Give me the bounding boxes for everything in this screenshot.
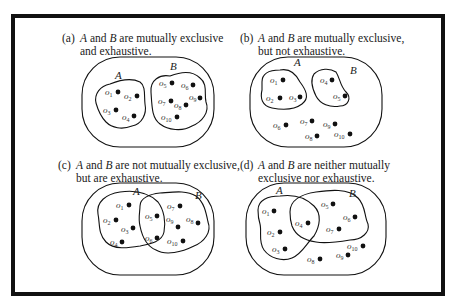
diagram-canvas: A B o1 o2 o3 o4 o5 o6 o7 o9 o8 o10 A B: [0, 0, 453, 302]
set-a-outline: [96, 80, 146, 128]
svg-text:o1: o1: [262, 206, 270, 217]
set-b-label: B: [195, 189, 202, 201]
svg-text:o9: o9: [189, 92, 197, 103]
svg-text:o7: o7: [158, 96, 166, 107]
svg-text:o10: o10: [167, 236, 178, 247]
svg-text:o7: o7: [167, 201, 175, 212]
svg-text:o8: o8: [174, 100, 182, 111]
set-a-label: A: [132, 185, 140, 197]
svg-text:o3: o3: [121, 224, 129, 235]
svg-text:o7: o7: [300, 116, 308, 127]
set-b-label: B: [350, 64, 357, 76]
svg-text:o2: o2: [267, 227, 275, 238]
svg-text:o1: o1: [270, 75, 278, 86]
svg-text:o8: o8: [305, 131, 313, 142]
svg-text:o4: o4: [295, 218, 303, 229]
point-labels: o1 o2 o3 o4 o5 o6 o7 o9 o8 o10: [103, 78, 197, 123]
svg-text:o9: o9: [323, 119, 331, 130]
panel-d: A B o1 o2 o3 o4 o5 o6 o7 o8 o9 o10: [246, 183, 386, 275]
svg-text:o6: o6: [145, 233, 153, 244]
panel-a: A B o1 o2 o3 o4 o5 o6 o7 o9 o8 o10: [82, 57, 214, 147]
panel-c: A B o1 o2 o3 o4 o5 o6 o7 o9 o8 o10: [82, 183, 214, 275]
svg-text:o5: o5: [145, 211, 153, 222]
svg-text:o4: o4: [122, 112, 130, 123]
points: [278, 78, 353, 139]
svg-text:o10: o10: [161, 112, 172, 123]
svg-text:o3: o3: [289, 92, 297, 103]
svg-text:o6: o6: [343, 212, 351, 223]
set-b-outline: [312, 69, 349, 106]
svg-text:o9: o9: [166, 214, 174, 225]
svg-text:o7: o7: [326, 224, 334, 235]
svg-text:o3: o3: [103, 105, 111, 116]
set-a-label: A: [114, 69, 122, 81]
svg-text:o6: o6: [181, 80, 189, 91]
svg-text:o8: o8: [186, 214, 194, 225]
svg-text:o10: o10: [334, 129, 345, 140]
svg-text:o6: o6: [273, 120, 281, 131]
panel-b: A B o1 o2 o3 o4 o5 o6 o7 o8 o9 o10: [250, 56, 382, 147]
svg-text:o4: o4: [110, 237, 118, 248]
set-a-outline: [261, 70, 306, 110]
svg-text:o5: o5: [159, 78, 167, 89]
set-a-label: A: [293, 56, 301, 68]
points: [272, 202, 366, 262]
set-b-label: B: [349, 187, 356, 199]
set-b-label: B: [170, 60, 177, 72]
svg-text:o2: o2: [124, 91, 132, 102]
svg-text:o5: o5: [333, 91, 341, 102]
svg-text:o2: o2: [103, 215, 111, 226]
set-a-label: A: [275, 184, 283, 196]
svg-text:o9: o9: [336, 250, 344, 261]
svg-text:o3: o3: [272, 244, 280, 255]
point-labels: o1 o2 o3 o4 o5 o6 o7 o8 o9 o10: [262, 199, 358, 265]
svg-text:o1: o1: [105, 87, 113, 98]
svg-text:o8: o8: [307, 254, 315, 265]
svg-text:o10: o10: [347, 241, 358, 252]
svg-text:o2: o2: [266, 93, 274, 104]
svg-text:o5: o5: [321, 199, 329, 210]
svg-text:o4: o4: [320, 75, 328, 86]
svg-text:o1: o1: [116, 200, 124, 211]
